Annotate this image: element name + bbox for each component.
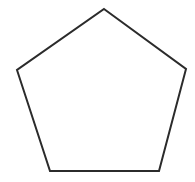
- pentagon-svg: [0, 0, 195, 182]
- drawing-canvas: [0, 0, 195, 182]
